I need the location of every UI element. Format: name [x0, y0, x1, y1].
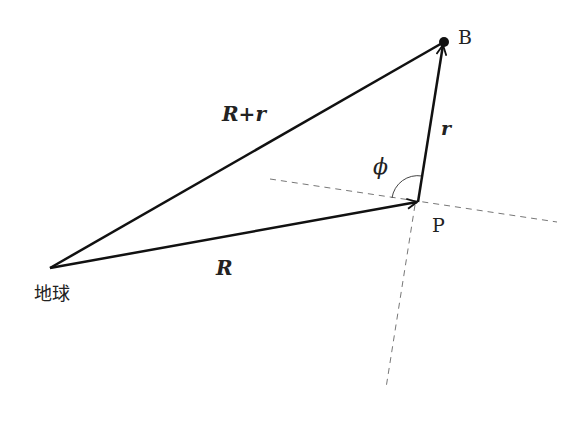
- label-B: B: [458, 26, 472, 48]
- label-R: R: [216, 256, 233, 280]
- dashed-tangent-line: [270, 179, 557, 222]
- label-phi: ϕ: [373, 154, 388, 179]
- label-R-plus-r: R+r: [222, 102, 266, 126]
- label-earth: 地球: [34, 279, 70, 305]
- diagram-svg: [0, 0, 588, 423]
- label-P: P: [432, 214, 445, 236]
- vector-r: [418, 45, 443, 202]
- vector-diagram: B P 地球 R+r r R ϕ: [0, 0, 588, 423]
- dashed-radial-line: [386, 205, 415, 388]
- label-r: r: [441, 117, 451, 139]
- angle-phi-arc: [392, 176, 422, 198]
- point-B-dot: [439, 37, 449, 47]
